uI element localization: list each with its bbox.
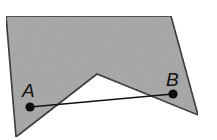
point-a-label: A xyxy=(21,80,35,101)
point-a-dot xyxy=(25,102,34,111)
polygon-diagram: A B xyxy=(0,0,217,140)
point-b-dot xyxy=(168,89,177,98)
point-b-label: B xyxy=(166,69,179,90)
